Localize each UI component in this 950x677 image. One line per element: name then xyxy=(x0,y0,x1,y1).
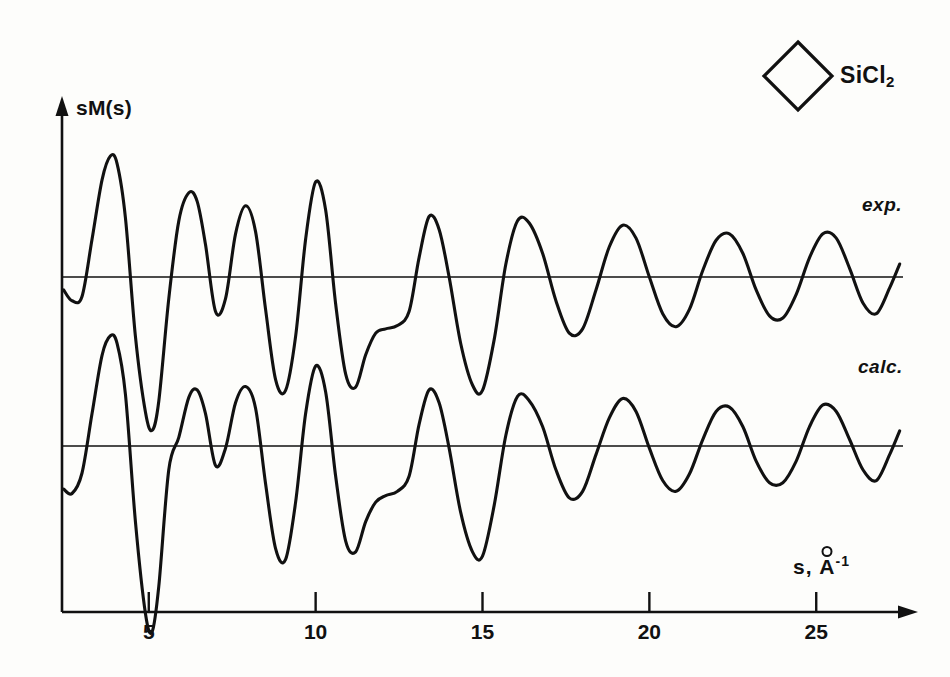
angstrom-ring-icon xyxy=(822,546,833,557)
x-tick-label-20: 20 xyxy=(624,620,674,644)
x-tick-label-10: 10 xyxy=(291,620,341,644)
x-axis xyxy=(62,592,918,619)
x-axis-label: s, A-1 xyxy=(793,553,850,579)
angstrom-symbol: A xyxy=(819,555,835,579)
x-axis-label-prefix: s, xyxy=(793,555,819,578)
curve-calc xyxy=(64,335,900,634)
molecule-formula-text: SiCl xyxy=(840,62,886,88)
curve-label-exp: exp. xyxy=(862,194,902,216)
baselines xyxy=(62,277,903,446)
curve-exp xyxy=(64,155,900,431)
x-tick-label-15: 15 xyxy=(458,620,508,644)
x-axis-label-exponent: -1 xyxy=(836,553,850,569)
y-axis xyxy=(56,96,69,612)
figure-container: sM(s) s, A-1 exp. calc. SiCl2 510152025 xyxy=(0,0,950,677)
molecule-formula-subscript: 2 xyxy=(886,73,895,90)
x-tick-label-25: 25 xyxy=(791,620,841,644)
molecule-formula-label: SiCl2 xyxy=(840,62,895,90)
y-axis-label: sM(s) xyxy=(76,96,132,120)
x-tick-label-5: 5 xyxy=(124,620,174,644)
cyclobutane-ring-diamond-icon xyxy=(764,42,832,110)
angstrom-letter: A xyxy=(819,555,835,578)
curve-label-calc: calc. xyxy=(858,356,903,378)
